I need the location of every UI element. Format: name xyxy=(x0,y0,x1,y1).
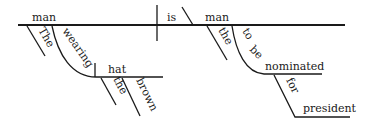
object-adjective-word: brown xyxy=(133,76,160,114)
verb-word: is xyxy=(167,11,177,24)
predicate-nominative-word: man xyxy=(205,11,229,24)
infinitive-verb-word: nominated xyxy=(265,60,324,73)
infinitive-part2-word: be xyxy=(247,43,266,62)
prepositional-object-word: president xyxy=(303,102,357,115)
preposition-word: for xyxy=(283,75,302,96)
participle-word: wearing xyxy=(60,25,97,70)
subject-word: man xyxy=(32,11,56,24)
participle-object-word: hat xyxy=(108,63,127,76)
complement-divider xyxy=(182,7,193,25)
sentence-diagram: man is man The wearing hat the brown the… xyxy=(0,0,366,132)
infinitive-part1-word: to xyxy=(239,26,256,43)
